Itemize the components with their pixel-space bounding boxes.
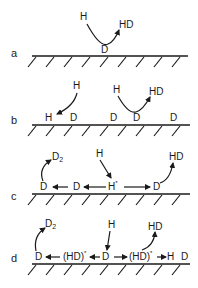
surface-hatching [28,126,180,136]
reaction-mechanism-diagram: a H HD D b H H HD H D D D D c [0,0,198,288]
surface-hatching [28,265,180,275]
adsorption-arrow [57,93,77,114]
surface-hatching [28,57,180,67]
gas-h-label: H [96,148,103,159]
hot-hd2-label: (HD)* [129,250,153,262]
hd-desorption-arrow [142,232,155,250]
adsorbed-h-label: H [167,251,174,262]
product-hd-label: HD [119,19,133,30]
adsorbed-d2-label: D [73,181,80,192]
adsorbed-d1-label: D [70,112,77,123]
product-hd-label: HD [148,221,162,232]
panel-label-a: a [11,47,18,59]
gas-h1-label: H [73,80,80,91]
adsorbed-d6-label: D [181,251,188,262]
abstraction-arrow [118,96,150,112]
gas-h-label: H [108,219,115,230]
d2-desorption-arrow [42,160,51,181]
adsorbed-d2-label: D [110,112,117,123]
product-d2-label: D2 [45,218,56,230]
eley-rideal-arrow [87,24,119,45]
panel-c: c D2 H HD D D H* D [11,148,190,205]
gas-h2-label: H [113,84,120,95]
adsorbed-d-label: D [101,44,108,55]
product-hd-label: HD [149,86,163,97]
adsorbed-d3-label: D [133,112,140,123]
adsorbed-h-label: H [45,112,52,123]
panel-label-b: b [11,114,17,126]
adsorbed-d3-label: D [102,251,109,262]
adsorbed-d1-label: D [35,251,42,262]
adsorbed-d4-label: D [170,112,177,123]
incoming-h-arrow [100,160,111,178]
product-hd-label: HD [169,151,183,162]
panel-d: d D2 H HD D (HD)* D (HD)* H D [11,218,190,275]
panel-label-d: d [11,252,17,264]
incoming-h-arrow [107,231,110,250]
panel-b: b H H HD H D D D D [11,80,190,136]
adsorbed-d1-label: D [40,181,47,192]
adsorbed-d4-label: D [153,181,160,192]
hd-desorption-arrow [160,163,173,183]
d2-desorption-arrow [35,228,45,251]
surface-hatching [28,195,180,205]
product-d2-label: D2 [52,151,63,163]
panel-a: a H HD D [11,11,188,67]
hot-atom-label: H* [108,180,118,192]
panel-label-c: c [11,190,17,202]
gas-h-label: H [80,11,87,22]
hot-hd1-label: (HD)* [63,250,87,262]
